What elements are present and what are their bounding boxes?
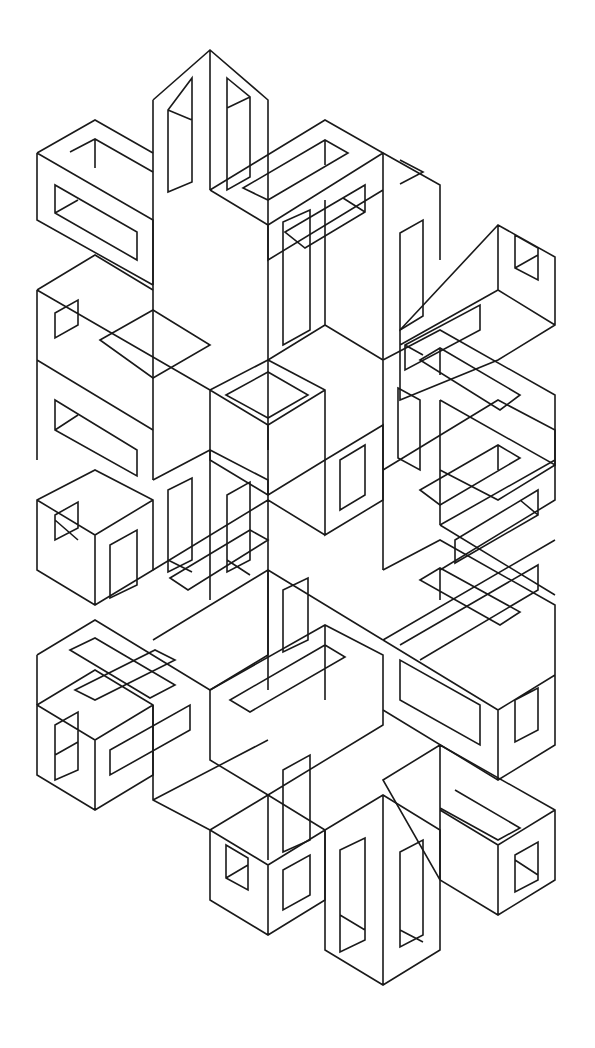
right-middle-frame <box>383 330 555 570</box>
isometric-line-drawing <box>0 0 595 1048</box>
lower-right-frame <box>383 540 555 780</box>
top-center-frame <box>210 120 383 260</box>
center-lower-frame <box>210 625 383 860</box>
left-lower-frame <box>37 470 153 605</box>
left-bottom-frame <box>37 650 190 810</box>
top-left-frame <box>37 120 153 285</box>
top-vertical-pillar-slots <box>168 78 250 192</box>
bottom-right-cube <box>383 745 555 915</box>
top-right-column <box>383 153 440 360</box>
left-middle-frame <box>37 255 210 476</box>
bottom-right-pillar <box>325 795 440 985</box>
right-lower-crossbar <box>383 525 555 660</box>
center-tall-frame <box>153 450 268 690</box>
